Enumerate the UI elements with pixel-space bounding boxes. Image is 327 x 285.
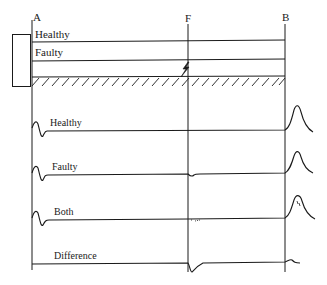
trace-label-healthy: Healthy — [50, 118, 82, 128]
source-box — [13, 35, 31, 87]
trace-both — [32, 196, 315, 226]
ground-hatching — [32, 78, 285, 86]
healthy-conductor — [32, 40, 285, 42]
conductor-label-healthy: Healthy — [35, 29, 70, 40]
point-label-a: A — [33, 12, 41, 23]
conductor-label-faulty: Faulty — [35, 47, 63, 58]
ground-line — [32, 76, 285, 77]
faulty-conductor — [32, 59, 285, 61]
trace-difference — [32, 260, 300, 272]
trace-label-both: Both — [54, 207, 73, 217]
trace-label-faulty: Faulty — [52, 162, 78, 172]
point-label-f: F — [185, 13, 191, 24]
diagram-canvas — [0, 0, 327, 285]
point-label-b: B — [282, 12, 289, 23]
trace-label-difference: Difference — [54, 251, 97, 261]
